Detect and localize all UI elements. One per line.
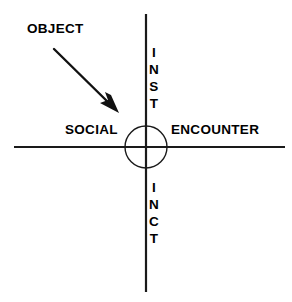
stack-letter: I [152,44,156,61]
object-annotation-label: OBJECT [27,22,84,36]
stack-letter: N [149,61,159,78]
diagram-canvas: OBJECT SOCIAL ENCOUNTER I N S T I N C T [0,0,292,302]
stack-letter: T [150,95,158,112]
axis-label-inst: I N S T [149,44,159,112]
axis-label-inct: I N C T [149,179,159,247]
axes-and-arrow-graphic [0,0,292,302]
annotation-arrow-shaft [54,49,113,107]
axis-label-social: SOCIAL [65,123,118,137]
annotation-arrow-head [100,92,119,113]
stack-letter: T [150,230,158,247]
stack-letter: S [149,78,158,95]
stack-letter: N [149,196,159,213]
stack-letter: C [149,213,159,230]
stack-letter: I [152,179,156,196]
axis-label-encounter: ENCOUNTER [171,123,259,137]
